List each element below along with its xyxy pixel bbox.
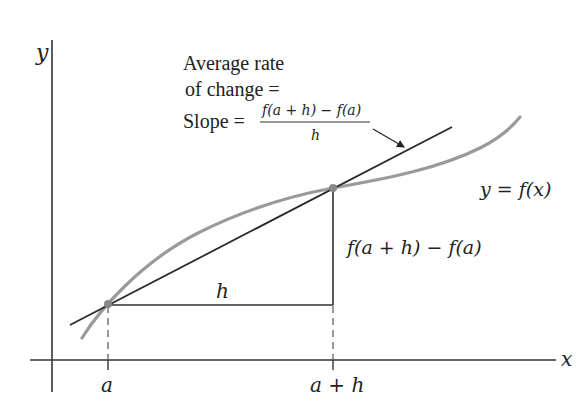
tick-label-a: a	[101, 373, 113, 397]
y-axis-label: y	[35, 40, 49, 65]
fraction-denominator: h	[311, 127, 320, 143]
annotation-arrow	[373, 129, 404, 147]
secant-line	[70, 127, 452, 325]
point-a	[104, 300, 112, 308]
rise-label: f(a + h) − f(a)	[345, 236, 482, 258]
annotation-line-1: Average rate	[183, 52, 284, 75]
tick-label-a-plus-h: a + h	[310, 373, 364, 397]
curve-label: y = f(x)	[479, 178, 551, 200]
diagram-canvas: y x a a + h h f(a + h) − f(a) y = f(x) A…	[0, 0, 587, 413]
run-label: h	[216, 279, 229, 303]
x-axis-label: x	[561, 347, 572, 371]
fraction-numerator: f(a + h) − f(a)	[261, 102, 361, 118]
annotation-line-3: Slope =	[183, 110, 245, 133]
annotation-line-2: of change =	[185, 78, 280, 101]
point-a-plus-h	[329, 184, 337, 192]
